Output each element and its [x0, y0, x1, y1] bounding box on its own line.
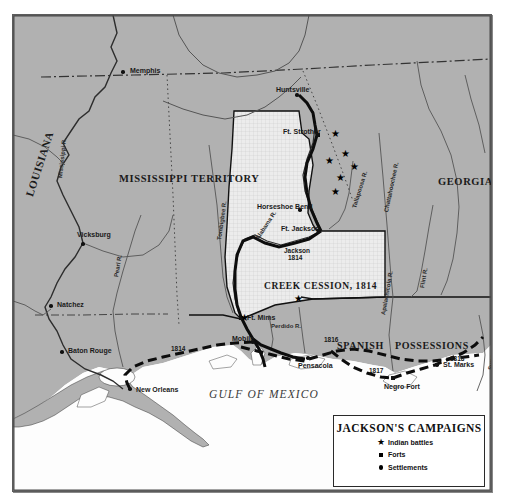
route-year-1: 1814 [288, 254, 302, 261]
legend-row-settlements: Settlements [374, 463, 484, 472]
settlement-marker-0 [121, 70, 125, 74]
settlement-marker-8 [306, 356, 310, 360]
square-icon [374, 450, 388, 459]
battle-marker-1: ★ [341, 149, 350, 159]
settlement-label-6: Horseshoe Bend [257, 203, 313, 210]
fort-label-1: Ft. Jackson [281, 225, 320, 232]
settlement-label-2: Natchez [57, 301, 84, 308]
fort-label-0: Ft. Strother [283, 128, 321, 135]
settlement-label-7: Mobile [232, 335, 254, 342]
legend-label-forts: Forts [388, 451, 406, 458]
route-year-4: 1818 [450, 355, 464, 362]
route-year-3: 1817 [369, 367, 383, 374]
route-year-2: 1816 [324, 336, 338, 343]
settlement-label-5: Huntsville [276, 86, 309, 93]
settlement-label-1: Vicksburg [77, 231, 111, 238]
settlement-marker-4 [128, 387, 132, 391]
battle-marker-2: ★ [350, 162, 359, 172]
settlement-label-9: St. Marks [443, 361, 474, 368]
legend-row-forts: Forts [374, 450, 484, 459]
battle-marker-6: ★ [294, 294, 303, 304]
ocean-label: GULF OF MEXICO [209, 388, 319, 400]
region-label-4: SPANISH [337, 340, 384, 351]
legend-label-settlements: Settlements [388, 464, 428, 471]
legend-row-battles: ★ Indian battles [374, 438, 484, 447]
legend-label-battles: Indian battles [388, 439, 433, 446]
battle-marker-4: ★ [325, 156, 334, 166]
region-label-3: CREEK CESSION, 1814 [264, 281, 377, 291]
battle-marker-0: ★ [331, 129, 340, 139]
battle-marker-7: ★ [240, 313, 249, 323]
region-label-2: GEORGIA [438, 176, 492, 187]
circle-icon [374, 463, 388, 472]
settlement-marker-1 [81, 242, 85, 246]
battle-marker-3: ★ [336, 173, 345, 183]
legend-box: JACKSON'S CAMPAIGNS ★ Indian battles For… [333, 415, 485, 487]
settlement-marker-5 [295, 93, 299, 97]
settlement-marker-2 [49, 304, 53, 308]
fort-marker-3 [391, 376, 395, 380]
battle-marker-5: ★ [331, 187, 340, 197]
settlement-marker-9 [435, 363, 439, 367]
route-year-5: Jackson [284, 247, 310, 254]
route-year-0: 1814 [171, 345, 185, 352]
river-label-7: Perdido R. [271, 323, 301, 329]
fort-label-3: Negro Fort [384, 383, 420, 390]
region-label-5: POSSESSIONS [395, 340, 469, 351]
map-screenshot: LOUISIANAMISSISSIPPI TERRITORYGEORGIACRE… [0, 0, 507, 501]
settlement-marker-3 [60, 350, 64, 354]
fort-label-2: Ft. Mims [247, 314, 275, 321]
legend-title: JACKSON'S CAMPAIGNS [334, 422, 484, 434]
settlement-label-4: New Orleans [136, 386, 178, 393]
settlement-label-3: Baton Rouge [68, 347, 112, 354]
star-icon: ★ [374, 438, 388, 447]
region-label-1: MISSISSIPPI TERRITORY [119, 173, 260, 184]
settlement-label-0: Memphis [130, 67, 160, 74]
settlement-label-8: Pensacola [298, 362, 333, 369]
